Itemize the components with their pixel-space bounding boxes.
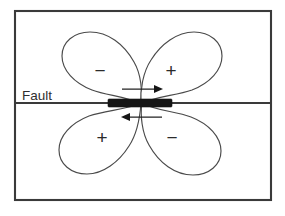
diagram-canvas: − + + − Fault (0, 0, 285, 216)
sign-upper-left: − (94, 60, 105, 81)
sign-lower-right: − (166, 127, 177, 148)
lobe-upper-right (141, 32, 222, 104)
fault-radiation-figure: − + + − Fault (0, 0, 285, 216)
sign-upper-right: + (165, 60, 176, 81)
fault-slip-bar (108, 99, 172, 107)
lobe-lower-right (141, 103, 221, 175)
sign-lower-left: + (96, 127, 107, 148)
fault-label: Fault (22, 88, 52, 103)
